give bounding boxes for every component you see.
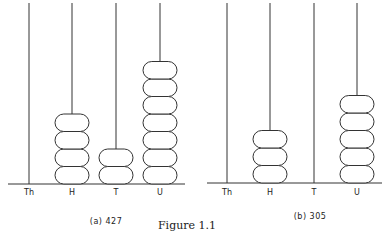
rod-label-th-a: Th — [24, 188, 34, 197]
abacus-bead — [143, 132, 177, 150]
abacus-bead — [340, 113, 374, 131]
abacus-bead — [340, 96, 374, 114]
caption-b: (b) 305 — [294, 212, 327, 221]
abacus-bead — [143, 114, 177, 132]
abacus-bead — [99, 149, 133, 167]
abacus-bead — [253, 166, 287, 184]
abacus-bead — [55, 132, 89, 150]
abacus-bead — [55, 114, 89, 132]
abacus-bead — [143, 149, 177, 167]
rod-label-t-a: T — [114, 188, 119, 197]
abacus-bead — [340, 148, 374, 166]
abacus-bead — [55, 167, 89, 185]
rod-label-th-b: Th — [222, 188, 232, 197]
abacus-bead — [143, 167, 177, 185]
figure-title: Figure 1.1 — [158, 219, 216, 232]
caption-a: (a) 427 — [90, 217, 122, 226]
abacus-diagram — [0, 0, 382, 234]
abacus-bead — [340, 131, 374, 149]
rod-label-t-b: T — [312, 188, 317, 197]
abacus-bead — [143, 62, 177, 80]
abacus-bead — [253, 131, 287, 149]
abacus-bead — [340, 166, 374, 184]
rod-label-h-a: H — [69, 188, 75, 197]
rod-label-h-b: H — [267, 188, 273, 197]
abacus-bead — [143, 79, 177, 97]
rod-label-u-b: U — [354, 188, 360, 197]
abacus-bead — [55, 149, 89, 167]
abacus-bead — [143, 97, 177, 115]
rod-label-u-a: U — [157, 188, 163, 197]
abacus-bead — [99, 167, 133, 185]
abacus-bead — [253, 148, 287, 166]
